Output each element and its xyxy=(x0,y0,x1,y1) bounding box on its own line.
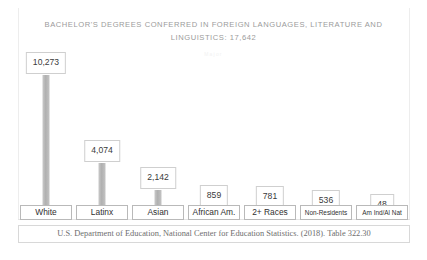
source-citation-text: U.S. Department of Education, National C… xyxy=(19,226,409,242)
bar-column: 781 xyxy=(242,60,298,220)
category-label-asian: Asian xyxy=(132,205,184,220)
category-label-latinx: Latinx xyxy=(76,205,128,220)
category-label-white: White xyxy=(20,205,72,220)
bar-column: 2,142 xyxy=(130,60,186,220)
bar-chart-figure: BACHELOR'S DEGREES CONFERRED IN FOREIGN … xyxy=(0,0,427,260)
bar-column: 859 xyxy=(186,60,242,220)
source-citation-box: U.S. Department of Education, National C… xyxy=(18,225,410,243)
bar-value-label: 859 xyxy=(200,185,228,207)
plot-area: 10,2734,0742,14285978153648 xyxy=(18,60,410,220)
bar-value-label: 4,074 xyxy=(84,140,120,162)
category-label-non-residents: Non-Residents xyxy=(300,205,352,220)
category-label-am-ind-al-nat: Am Ind/Al Nat xyxy=(356,205,408,220)
category-axis-labels: WhiteLatinxAsianAfrican Am.2+ RacesNon-R… xyxy=(18,205,410,220)
bar-column: 4,074 xyxy=(74,60,130,220)
chart-subtitle: Major xyxy=(40,51,387,57)
bar-value-label: 10,273 xyxy=(26,52,66,74)
bar xyxy=(43,75,50,220)
bar-value-label: 2,142 xyxy=(140,167,176,189)
bar-column: 10,273 xyxy=(18,60,74,220)
chart-title: BACHELOR'S DEGREES CONFERRED IN FOREIGN … xyxy=(40,19,387,44)
category-label-2-races: 2+ Races xyxy=(244,205,296,220)
bar-column: 536 xyxy=(298,60,354,220)
bar-column: 48 xyxy=(354,60,410,220)
category-label-african-am: African Am. xyxy=(188,205,240,220)
